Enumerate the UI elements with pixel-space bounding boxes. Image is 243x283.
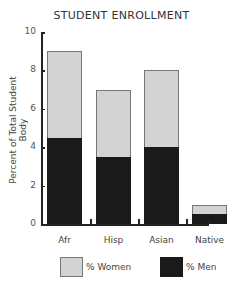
y-tick-label: 4 — [24, 141, 36, 151]
x-tick-label: Native — [190, 235, 230, 245]
bar-women-native — [192, 205, 227, 215]
bar-men-native — [192, 214, 227, 224]
chart-title: STUDENT ENROLLMENT — [0, 9, 243, 22]
y-tick — [41, 109, 45, 111]
legend-label-men: % Men — [186, 262, 216, 272]
y-tick-label: 2 — [24, 180, 36, 190]
y-tick — [41, 70, 45, 72]
y-tick — [41, 186, 45, 188]
bar-women-hisp — [96, 90, 131, 157]
bar-men-afr — [47, 138, 82, 224]
bar-women-asian — [144, 70, 179, 147]
y-tick — [41, 32, 45, 34]
y-tick-label: 0 — [24, 218, 36, 228]
legend-label-women: % Women — [86, 262, 131, 272]
x-tick-label: Asian — [142, 235, 182, 245]
legend-swatch-men — [160, 257, 183, 277]
x-tick-label: Afr — [45, 235, 85, 245]
y-tick-label: 8 — [24, 64, 36, 74]
x-tick — [90, 219, 92, 224]
y-tick-label: 6 — [24, 103, 36, 113]
x-tick — [208, 219, 210, 224]
y-axis-line — [41, 32, 43, 225]
x-tick — [186, 219, 188, 224]
bar-men-asian — [144, 147, 179, 224]
legend-swatch-women — [60, 257, 83, 277]
y-tick-label: 10 — [24, 26, 36, 36]
y-tick — [41, 147, 45, 149]
x-axis-line — [41, 224, 209, 226]
y-axis-label: Percent of Total Student Body — [8, 65, 28, 195]
x-tick — [138, 219, 140, 224]
bar-men-hisp — [96, 157, 131, 224]
x-tick-label: Hisp — [94, 235, 134, 245]
bar-women-afr — [47, 51, 82, 137]
